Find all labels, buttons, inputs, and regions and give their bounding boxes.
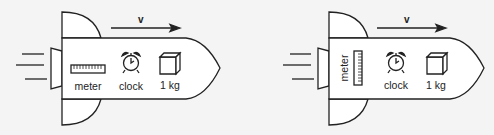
bottom-fin-icon	[62, 99, 101, 125]
clock-label: clock	[119, 80, 144, 92]
top-fin-icon	[62, 12, 101, 38]
ruler-icon	[71, 65, 105, 73]
rocket-diagram: v meter clock 1 kg	[0, 0, 494, 135]
meter-label: meter	[338, 54, 350, 81]
meter-label: meter	[75, 80, 102, 92]
velocity-arrow-icon	[111, 25, 180, 32]
mass-cube-icon	[427, 53, 447, 74]
nozzle-icon	[318, 48, 329, 89]
velocity-label: v	[138, 14, 144, 25]
rocket-left	[16, 12, 220, 125]
mass-cube-icon	[160, 53, 180, 74]
exhaust-lines-icon	[16, 54, 47, 79]
exhaust-lines-icon	[283, 54, 314, 79]
ruler-icon	[354, 51, 362, 85]
nozzle-icon	[51, 48, 62, 89]
clock-label: clock	[384, 79, 409, 91]
bottom-fin-icon	[329, 99, 368, 125]
velocity-label: v	[404, 14, 410, 25]
velocity-arrow-icon	[377, 25, 446, 32]
top-fin-icon	[329, 12, 368, 38]
mass-label: 1 kg	[160, 79, 180, 91]
rocket-right	[283, 12, 484, 125]
mass-label: 1 kg	[426, 79, 446, 91]
